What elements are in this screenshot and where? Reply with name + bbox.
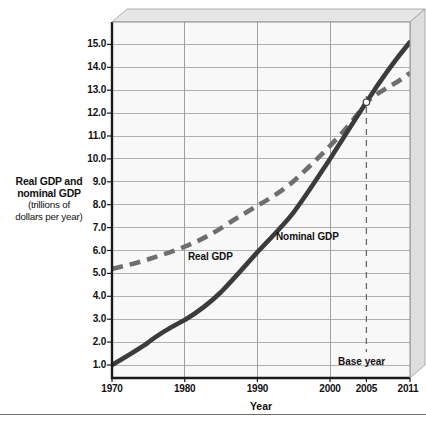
x-tick-1970: 1970 [101,383,122,394]
y-axis-title-line-3: (trillions of [0,199,98,211]
x-tick-2000: 2000 [319,383,340,394]
y-axis-title-line-2: nominal GDP [0,188,98,200]
x-tick-2005: 2005 [356,383,377,394]
x-tick-2011: 2011 [398,383,419,394]
gdp-chart-figure: 15.0 14.0 13.0 12.0 11.0 10.0 9.0 8.0 7.… [0,0,426,422]
series-label-nominal-gdp: Nominal GDP [276,231,339,242]
series-label-real-gdp: Real GDP [188,251,233,262]
x-tick-1980: 1980 [174,383,195,394]
y-axis-title: Real GDP and nominal GDP (trillions of d… [0,176,98,222]
y-axis-title-line-4: dollars per year) [0,211,98,223]
bottom-divider [0,414,426,415]
x-tick-1990: 1990 [247,383,268,394]
y-axis-title-line-1: Real GDP and [0,176,98,188]
x-axis-title: Year [112,400,410,412]
base-year-annotation: Base year [338,356,385,367]
